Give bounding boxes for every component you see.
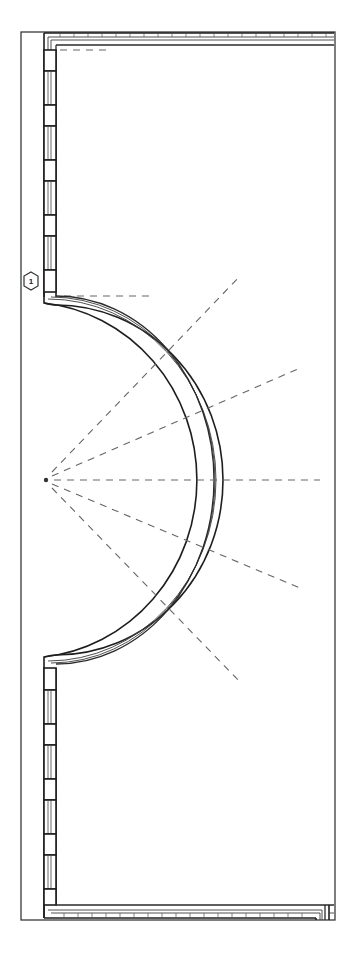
arc-center-point (44, 478, 48, 482)
lower-window-bay (44, 668, 56, 918)
bottom-wall (44, 905, 334, 918)
section-tag[interactable]: 1 (24, 272, 38, 290)
upper-window-bay (44, 50, 56, 297)
top-wall (44, 33, 334, 45)
top-left-corner (44, 33, 56, 50)
outer-frame (21, 32, 335, 920)
bottom-right-wall-return (316, 905, 334, 920)
tag-label: 1 (29, 277, 34, 286)
floor-plan-drawing: 1 (0, 0, 355, 976)
radial-dashed-lines (52, 276, 320, 682)
